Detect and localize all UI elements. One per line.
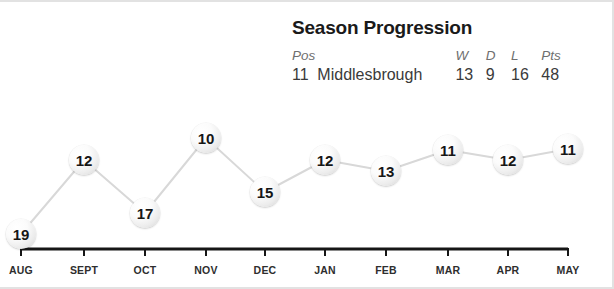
data-point-dec[interactable]: 15: [250, 177, 280, 207]
data-point-aug[interactable]: 19: [6, 219, 36, 249]
data-point-nov[interactable]: 10: [191, 123, 221, 153]
x-label-oct: OCT: [134, 264, 157, 276]
season-progression-panel: Season Progression Pos W D L Pts 11 Midd…: [0, 0, 614, 289]
x-label-mar: MAR: [436, 264, 461, 276]
data-point-apr[interactable]: 12: [493, 145, 523, 175]
x-label-sept: SEPT: [70, 264, 98, 276]
data-point-sept[interactable]: 12: [69, 145, 99, 175]
x-label-nov: NOV: [194, 264, 217, 276]
x-label-may: MAY: [557, 264, 580, 276]
series-line: [21, 138, 568, 234]
data-point-oct[interactable]: 17: [130, 198, 160, 228]
x-axis: [21, 248, 568, 256]
x-label-dec: DEC: [254, 264, 277, 276]
data-point-jan[interactable]: 12: [310, 145, 340, 175]
line-chart: 19121710151213111211 AUGSEPTOCTNOVDECJAN…: [0, 2, 614, 289]
x-label-apr: APR: [497, 264, 520, 276]
data-point-may[interactable]: 11: [553, 134, 583, 164]
x-label-feb: FEB: [375, 264, 397, 276]
x-label-aug: AUG: [9, 264, 33, 276]
chart-svg: [0, 2, 614, 289]
data-point-feb[interactable]: 13: [371, 156, 401, 186]
data-point-mar[interactable]: 11: [433, 135, 463, 165]
x-label-jan: JAN: [314, 264, 336, 276]
